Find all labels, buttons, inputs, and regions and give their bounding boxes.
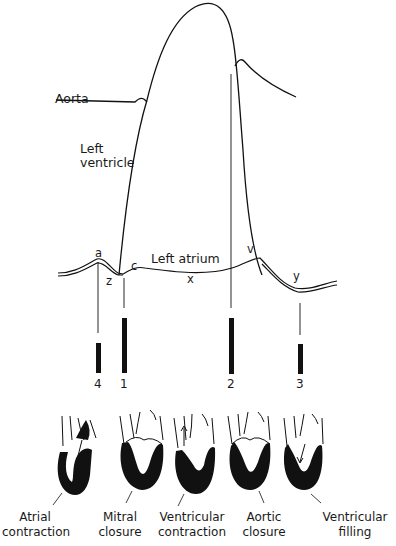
wave-point-x: x [187,272,194,286]
heart-ventricular-contraction-icon [174,414,215,494]
left-atrium-label: Left atrium [151,252,220,266]
caption-mitral-closure: Mitral closure [92,510,148,540]
marker-number-1: 1 [120,377,128,391]
aorta-trace-after [235,60,296,97]
heart-ventricular-filling-icon [284,414,323,490]
caption-ventricular-filling: Ventricular filling [318,510,392,540]
heart-aortic-closure-icon [228,412,270,490]
wave-point-z: z [106,274,112,288]
leader-atrial [53,493,62,505]
wave-point-v: v [247,242,254,256]
heart-atrial-contraction-icon [58,416,96,495]
left-ventricle-label-line1: Left [80,142,104,156]
marker-number-2: 2 [227,377,235,391]
marker-bar-4 [96,343,101,373]
wave-point-c: c [131,259,137,273]
aorta-label: Aorta [55,92,89,106]
wave-point-y: y [293,269,300,283]
marker-number-3: 3 [296,377,304,391]
wave-point-a: a [95,246,102,260]
caption-atrial-contraction: Atrial contraction [2,510,68,540]
caption-ventricular-contraction: Ventricular contraction [155,510,229,540]
marker-bar-1 [122,318,127,373]
leader-mitral [126,491,132,503]
left-ventricle-label-line2: ventricle [80,156,135,170]
marker-bar-3 [298,344,303,374]
pressure-diagram [0,0,396,546]
caption-aortic-closure: Aortic closure [240,510,288,540]
marker-bar-2 [229,318,234,374]
heart-mitral-closure-icon [120,410,163,490]
leader-ventricular-contraction [178,494,184,506]
marker-number-4: 4 [94,377,102,391]
leader-ventricular-filling [311,494,321,503]
leader-aortic [259,491,264,503]
left-ventricle-trace [119,3,262,275]
